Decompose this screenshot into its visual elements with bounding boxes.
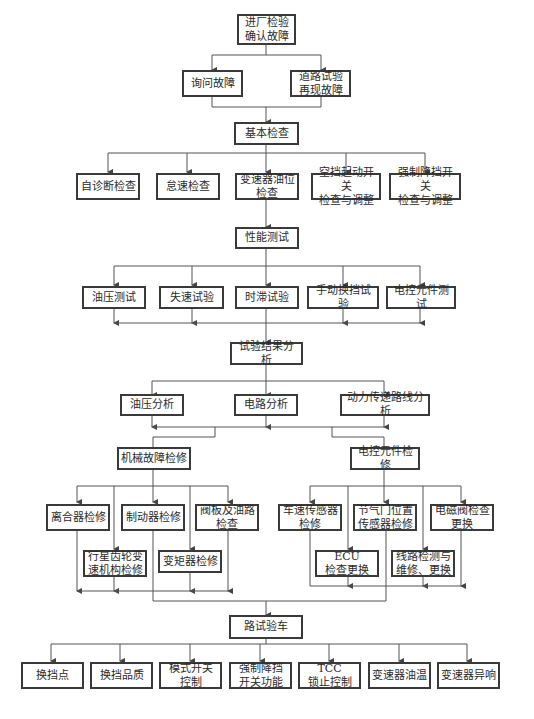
node-label: 空挡起动开关 检查与调整 [315, 166, 377, 208]
node-label: 强制降挡开关 检查与调整 [393, 166, 457, 208]
node-result-analysis: 试验结果分析 [230, 342, 303, 365]
node-label: 节气门位置 传感器检修 [358, 504, 413, 532]
node-label: 时滞试验 [245, 291, 289, 305]
node-manual-shift-test: 手动换挡试验 [307, 286, 379, 309]
node-electronic-test: 电控元件测试 [386, 286, 456, 309]
node-label: 制动器检修 [126, 511, 181, 525]
node-label: 行星齿轮变 速机构检修 [88, 550, 143, 578]
node-label: TCC 锁止控制 [308, 662, 352, 690]
node-mode-switch: 模式开关 控制 [159, 662, 222, 689]
node-label: 道路试验 再现故障 [299, 70, 343, 98]
node-label: 电路分析 [244, 398, 288, 412]
node-performance-test: 性能测试 [235, 227, 299, 249]
node-power-path-analysis: 动力传递路线分析 [340, 394, 430, 416]
node-label: 阀板及油路 检查 [200, 504, 255, 532]
node-label: 变速器异响 [441, 669, 496, 683]
node-abnormal-noise: 变速器异响 [437, 662, 500, 689]
node-label: 变速器油温 [372, 669, 427, 683]
node-electronic-repair: 电控元件检修 [350, 447, 420, 470]
node-valve-body-check: 阀板及油路 检查 [195, 504, 259, 531]
node-planetary-gear-repair: 行星齿轮变 速机构检修 [83, 550, 147, 577]
node-label: 基本检查 [245, 127, 289, 141]
node-label: 换挡点 [36, 669, 69, 683]
node-label: 换挡品质 [100, 669, 144, 683]
node-stall-test: 失速试验 [159, 286, 224, 309]
node-label: 失速试验 [170, 291, 214, 305]
node-time-lag-test: 时滞试验 [235, 286, 299, 309]
node-label: 电磁阀检查 更换 [435, 504, 490, 532]
node-label: 变矩器检修 [163, 555, 218, 569]
node-oil-temperature: 变速器油温 [368, 662, 431, 689]
node-ecu-check: ECU 检查更换 [315, 550, 379, 577]
node-label: 性能测试 [245, 231, 289, 245]
node-brake-repair: 制动器检修 [121, 504, 185, 531]
node-tcc-lockup: TCC 锁止控制 [298, 662, 361, 689]
node-circuit-analysis: 电路分析 [234, 394, 298, 416]
node-neutral-switch: 空挡起动开关 检查与调整 [311, 173, 381, 200]
node-label: 离合器检修 [51, 511, 106, 525]
node-label: 自诊断检查 [81, 180, 136, 194]
node-label: 变速器油位 检查 [240, 173, 295, 201]
node-clutch-repair: 离合器检修 [46, 504, 110, 531]
node-mechanical-repair: 机械故障检修 [117, 447, 191, 470]
node-label: 手动换挡试验 [311, 284, 375, 312]
node-label: 路试验车 [244, 620, 288, 634]
node-throttle-sensor-repair: 节气门位置 传感器检修 [353, 504, 417, 531]
node-oil-level-check: 变速器油位 检查 [235, 173, 299, 200]
node-road-test: 路试验车 [229, 615, 303, 639]
node-shift-point: 换挡点 [21, 662, 84, 689]
node-label: 线路检测与 维修、更换 [396, 550, 451, 578]
node-oil-pressure-test: 油压测试 [82, 286, 146, 309]
node-label: 电控元件测试 [390, 284, 452, 312]
node-kickdown-function: 强制降挡 开关功能 [229, 662, 292, 689]
node-speed-sensor-repair: 车速传感器 检修 [278, 504, 342, 531]
node-wiring-check: 线路检测与 维修、更换 [391, 550, 455, 577]
node-oil-pressure-analysis: 油压分析 [120, 394, 184, 416]
node-label: 电控元件检修 [354, 445, 416, 473]
node-solenoid-check: 电磁阀检查 更换 [430, 504, 494, 531]
node-label: 试验结果分析 [234, 340, 299, 368]
node-label: 怠速检查 [166, 180, 210, 194]
node-label: 车速传感器 检修 [283, 504, 338, 532]
node-label: 动力传递路线分析 [344, 391, 426, 419]
node-label: 油压分析 [130, 398, 174, 412]
node-label: 强制降挡 开关功能 [239, 662, 283, 690]
node-label: 模式开关 控制 [169, 662, 213, 690]
node-kickdown-switch: 强制降挡开关 检查与调整 [389, 173, 461, 200]
node-label: 进厂检验 确认故障 [245, 16, 289, 44]
node-road-test-reproduce: 道路试验 再现故障 [290, 70, 351, 97]
node-label: 油压测试 [92, 291, 136, 305]
node-label: 机械故障检修 [121, 452, 187, 466]
node-factory-inspection: 进厂检验 确认故障 [237, 14, 296, 45]
node-ask-fault: 询问故障 [182, 70, 243, 97]
flowchart-diagram: 进厂检验 确认故障 询问故障 道路试验 再现故障 基本检查 自诊断检查 怠速检查… [0, 0, 534, 719]
node-idle-check: 怠速检查 [156, 173, 220, 200]
node-label: 询问故障 [191, 77, 235, 91]
node-self-diagnosis: 自诊断检查 [76, 173, 140, 200]
node-label: ECU 检查更换 [325, 550, 369, 578]
node-basic-check: 基本检查 [234, 122, 299, 145]
node-shift-quality: 换挡品质 [90, 662, 153, 689]
node-torque-converter-repair: 变矩器检修 [158, 550, 222, 573]
